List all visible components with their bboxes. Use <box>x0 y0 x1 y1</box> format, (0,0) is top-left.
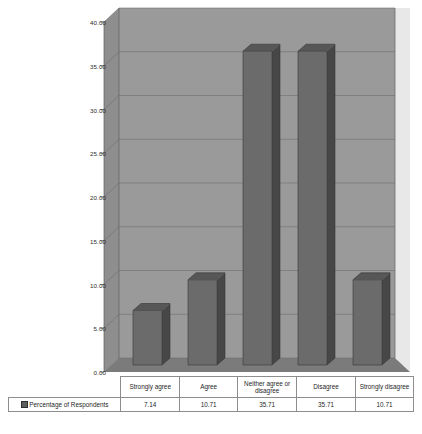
legend-entry[interactable]: Percentage of Respondents <box>9 398 121 412</box>
legend-series-label: Percentage of Respondents <box>29 401 108 408</box>
plot-right-depth <box>395 8 410 372</box>
value-cell-2: 35.71 <box>238 398 297 412</box>
value-cell-1: 10.71 <box>180 398 238 412</box>
bar-neither-agree-or-disagree[interactable] <box>243 44 280 365</box>
category-cell-0: Strongly agree <box>121 377 180 398</box>
table-row-values: Percentage of Respondents 7.14 10.71 35.… <box>9 398 414 412</box>
bar-disagree[interactable] <box>298 44 335 365</box>
y-tick-label: 40.00 <box>74 19 106 26</box>
y-tick-label: 25.00 <box>74 150 106 157</box>
value-cell-4: 10.71 <box>356 398 414 412</box>
y-axis-labels: 40.00 35.00 30.00 25.00 20.00 15.00 10.0… <box>74 0 106 434</box>
bar-chart: 40.00 35.00 30.00 25.00 20.00 15.00 10.0… <box>0 0 422 434</box>
chart-plot-area <box>0 0 422 434</box>
y-tick-label: 15.00 <box>74 237 106 244</box>
category-cell-3: Disagree <box>297 377 356 398</box>
bar-strongly-agree[interactable] <box>133 304 170 366</box>
legend-swatch-icon <box>21 401 28 408</box>
category-cell-2: Neither agree or disagree <box>238 377 297 398</box>
value-cell-0: 7.14 <box>121 398 180 412</box>
y-tick-label: 35.00 <box>74 62 106 69</box>
table-row-categories: Strongly agree Agree Neither agree or di… <box>9 377 414 398</box>
y-tick-label: 5.00 <box>74 325 106 332</box>
table-corner-cell <box>9 377 121 398</box>
y-tick-label: 30.00 <box>74 106 106 113</box>
bar-strongly-disagree[interactable] <box>353 273 390 365</box>
chart-data-table: Strongly agree Agree Neither agree or di… <box>8 376 414 412</box>
bar-agree[interactable] <box>188 273 225 365</box>
category-cell-4: Strongly disagree <box>356 377 414 398</box>
y-tick-label: 10.00 <box>74 281 106 288</box>
y-tick-label: 0.00 <box>74 369 106 376</box>
value-cell-3: 35.71 <box>297 398 356 412</box>
category-cell-1: Agree <box>180 377 238 398</box>
y-tick-label: 20.00 <box>74 194 106 201</box>
